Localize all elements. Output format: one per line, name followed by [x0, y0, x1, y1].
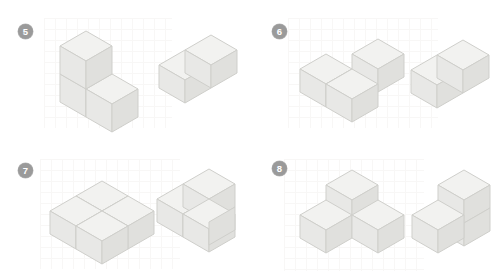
figure-pair-7 [0, 139, 244, 277]
figure-pair-8 [244, 139, 488, 277]
figure-pair-5 [0, 0, 244, 139]
figure-pair-6 [244, 0, 488, 139]
figure-8-right [412, 167, 495, 272]
worksheet-item-8: 8 [244, 139, 488, 277]
figure-5-right [157, 43, 247, 113]
worksheet-item-5: 5 [0, 0, 244, 139]
figure-8-left [300, 167, 430, 272]
figure-6-right [409, 48, 495, 118]
figure-7-left [50, 182, 170, 262]
worksheet-item-7: 7 [0, 139, 244, 277]
figure-7-right [155, 179, 255, 269]
figure-5-left [56, 26, 166, 126]
worksheet-item-6: 6 [244, 0, 488, 139]
